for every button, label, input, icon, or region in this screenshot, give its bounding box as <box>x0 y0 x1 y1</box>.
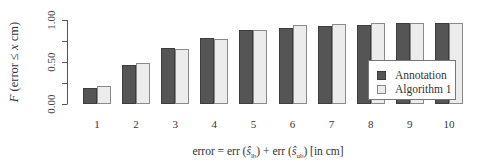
y-label-f: F <box>7 95 21 103</box>
legend-label: Annotation <box>395 69 447 81</box>
y-axis-label: F (error ≤ x cm) <box>7 22 22 102</box>
x-tick-label: 5 <box>251 118 257 130</box>
x-tick-label: 9 <box>407 118 413 130</box>
x-tick-label: 2 <box>133 118 139 130</box>
bar-algorithm-4 <box>214 39 228 104</box>
x-tick-label: 10 <box>443 118 454 130</box>
x-label-part: error = err ( <box>192 145 246 157</box>
bar-algorithm-7 <box>332 24 346 104</box>
bar-annotation-4 <box>200 38 214 104</box>
x-tick-label: 7 <box>329 118 335 130</box>
bar-annotation-5 <box>239 30 253 104</box>
y-label-text: (error ≤ <box>7 50 21 95</box>
bar-algorithm-3 <box>175 49 189 104</box>
y-tick-label: 1.00 <box>45 10 57 29</box>
bar-annotation-2 <box>122 65 136 104</box>
legend-swatch-light <box>377 85 386 94</box>
y-label-suffix: cm) <box>7 22 21 45</box>
x-tick-label: 3 <box>172 118 178 130</box>
bar-chart: F (error ≤ x cm) 0.000.501.00 1234567891… <box>0 0 481 167</box>
legend-item-algorithm: Algorithm 1 <box>377 83 452 95</box>
legend-item-annotation: Annotation <box>377 69 447 81</box>
x-tick-label: 8 <box>368 118 374 130</box>
x-tick-label: 6 <box>290 118 296 130</box>
y-tick-label: 0.00 <box>45 94 57 113</box>
legend-label: Algorithm 1 <box>395 83 452 95</box>
legend-swatch-dark <box>377 71 386 80</box>
bar-algorithm-1 <box>97 86 111 104</box>
x-label-sub: ub <box>296 152 303 160</box>
bar-annotation-1 <box>83 88 97 104</box>
x-tick-label: 1 <box>94 118 100 130</box>
bar-algorithm-2 <box>136 63 150 104</box>
y-tick-label: 0.50 <box>45 52 57 71</box>
bar-algorithm-6 <box>293 25 307 104</box>
x-axis-label: error = err (ŝlb) + err (ŝub) [in cm] <box>192 145 343 160</box>
x-label-part: ) [in cm] <box>303 145 343 157</box>
bar-annotation-7 <box>318 26 332 104</box>
x-tick-label: 4 <box>212 118 218 130</box>
legend: Annotation Algorithm 1 <box>368 60 456 100</box>
bar-annotation-3 <box>161 48 175 104</box>
bar-annotation-6 <box>279 28 293 104</box>
y-label-var: x <box>7 44 21 50</box>
bar-algorithm-5 <box>253 30 267 104</box>
x-label-part: ) + err ( <box>256 145 292 157</box>
